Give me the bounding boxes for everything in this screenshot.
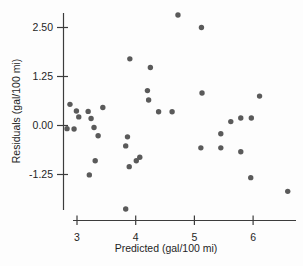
data-point [285,189,290,194]
data-point [169,109,174,114]
data-point [238,149,243,154]
data-point [146,97,151,102]
y-axis-title: Residuals (gal/100 mi) [10,59,22,163]
data-point [257,93,262,98]
data-point [228,119,233,124]
data-point [64,126,69,131]
data-point [123,206,128,211]
data-point [100,105,105,110]
data-point [238,115,243,120]
data-point [199,90,204,95]
y-tick-label: 0.00 [33,119,54,131]
data-point [156,109,161,114]
y-tick-label: -1.25 [29,168,53,180]
x-tick-label: 3 [74,231,80,243]
data-point [218,131,223,136]
data-point [88,116,93,121]
data-point [91,125,96,130]
y-tick-label: 2.50 [33,21,54,33]
data-point [218,145,223,150]
data-point [198,145,203,150]
data-point [125,134,130,139]
data-point [249,115,254,120]
data-point [145,88,150,93]
data-point [127,56,132,61]
data-point [248,175,253,180]
data-point [123,143,128,148]
y-tick-label: 1.25 [33,70,54,82]
scatter-plot-canvas: -1.250.001.252.503456 [0,0,303,266]
data-point [74,108,79,113]
data-point [67,102,72,107]
data-point [127,164,132,169]
data-point [199,25,204,30]
data-point [76,114,81,119]
data-point [175,12,180,17]
data-point [87,172,92,177]
x-axis-title: Predicted (gal/100 mi) [115,242,218,254]
data-point [95,133,100,138]
data-point [71,126,76,131]
data-point [85,109,90,114]
residual-scatter-figure: -1.250.001.252.503456 Residuals (gal/100… [0,0,303,266]
x-tick-label: 6 [250,231,256,243]
data-point [92,158,97,163]
data-point [148,65,153,70]
data-point [134,158,139,163]
